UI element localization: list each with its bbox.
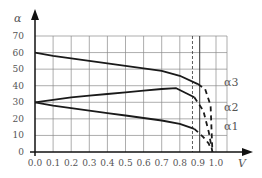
y-axis-label: α: [14, 12, 22, 25]
x-tick-label: 1.0: [209, 158, 224, 168]
legend-label-α3: α3: [224, 76, 238, 89]
chart: 0102030405060700.00.10.20.30.40.50.60.70…: [0, 0, 262, 178]
y-tick-label: 10: [13, 130, 25, 140]
x-axis-arrow-icon: [242, 148, 253, 156]
x-tick-label: 0.2: [64, 158, 78, 168]
x-tick-label: 0.1: [46, 158, 60, 168]
y-tick-label: 20: [13, 114, 25, 124]
axes: [30, 9, 253, 156]
y-tick-label: 60: [13, 48, 25, 58]
y-tick-label: 70: [13, 31, 25, 41]
x-tick-label: 0.3: [82, 158, 97, 168]
x-tick-label: 0.7: [155, 158, 170, 168]
legend-label-α1: α1: [224, 120, 238, 133]
y-tick-label: 30: [13, 97, 25, 107]
y-axis-arrow-icon: [31, 9, 39, 20]
x-tick-label: 0.8: [173, 158, 188, 168]
curve-α1-solid: [35, 102, 194, 129]
curve-α2-solid: [35, 88, 194, 102]
x-tick-label: 0.9: [191, 158, 206, 168]
x-tick-label: 0.5: [118, 158, 133, 168]
x-tick-label: 0.4: [100, 158, 115, 168]
grid: [35, 36, 227, 152]
y-tick-label: 50: [13, 64, 25, 74]
x-axis-label: V: [238, 157, 247, 170]
legend: α3α2α1: [224, 76, 238, 133]
y-tick-label: 40: [13, 81, 25, 91]
y-tick-label: 0: [18, 147, 24, 157]
reference-lines: [192, 36, 199, 152]
curve-α3-solid: [35, 53, 198, 85]
x-tick-label: 0.0: [28, 158, 43, 168]
legend-label-α2: α2: [224, 101, 238, 114]
x-tick-label: 0.6: [136, 158, 151, 168]
tick-labels: 0102030405060700.00.10.20.30.40.50.60.70…: [13, 31, 224, 168]
